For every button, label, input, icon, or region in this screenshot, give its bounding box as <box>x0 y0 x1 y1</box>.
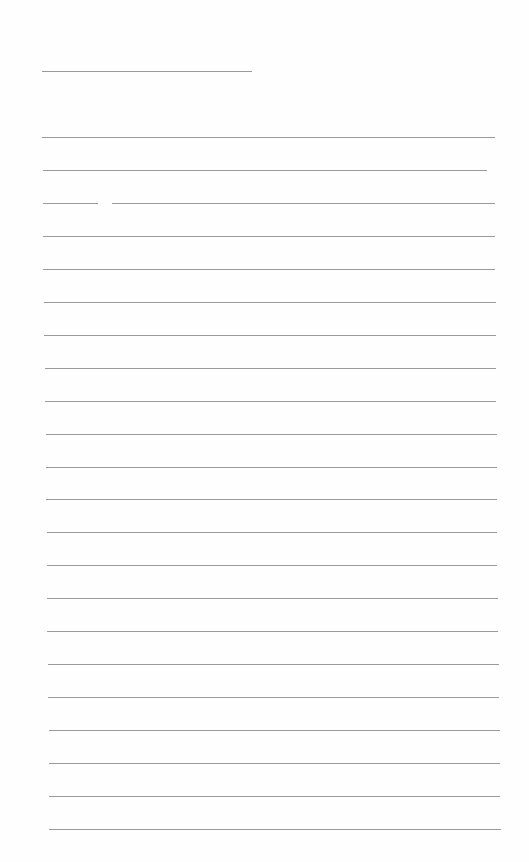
ruled-line <box>47 565 497 566</box>
ruled-line <box>42 137 495 138</box>
ruled-line <box>48 697 499 698</box>
ruled-line <box>46 434 497 435</box>
lined-paper-page <box>0 0 529 862</box>
ruled-line <box>43 236 495 237</box>
ruled-line <box>43 170 487 171</box>
ruled-line <box>46 499 497 500</box>
ruled-line <box>49 763 500 764</box>
ruled-line-segment <box>43 203 98 204</box>
header-line <box>42 71 252 72</box>
ruled-line <box>49 796 500 797</box>
ruled-line <box>43 269 495 270</box>
ruled-line <box>47 631 498 632</box>
ruled-line <box>48 664 499 665</box>
ruled-line <box>44 335 496 336</box>
ruled-line <box>47 598 498 599</box>
ruled-line <box>49 829 501 830</box>
ruled-line <box>46 467 497 468</box>
ruled-line <box>44 302 496 303</box>
ruled-line <box>45 401 496 402</box>
ruled-line-segment <box>112 203 495 204</box>
ruled-line <box>49 730 500 731</box>
ruled-line <box>47 532 497 533</box>
ruled-line <box>45 368 496 369</box>
